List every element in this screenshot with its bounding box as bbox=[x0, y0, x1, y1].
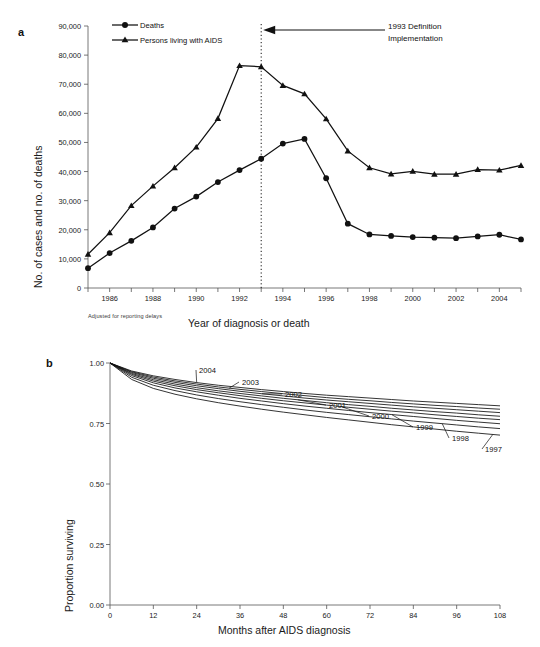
panel-a-y-tick-20000: 20,000 bbox=[35, 225, 81, 234]
panel-b-x-tick-72: 72 bbox=[366, 611, 374, 620]
panel-b-curve-2000 bbox=[110, 363, 500, 420]
panel-b-curve-2002 bbox=[110, 363, 500, 413]
panel-b-curve-label-2003: 2003 bbox=[242, 378, 259, 387]
panel-a-x-tick-1992: 1992 bbox=[231, 294, 247, 303]
panel-b-leader-1998 bbox=[442, 424, 449, 438]
panel-b-y-tick-0-75: 0.75 bbox=[58, 419, 104, 428]
panel-a-y-tick-40000: 40,000 bbox=[35, 167, 81, 176]
panel-a-y-tick-60000: 60,000 bbox=[35, 109, 81, 118]
panel-b-x-tick-108: 108 bbox=[494, 611, 506, 620]
figure-root: a No. of cases and no. of deaths Year of… bbox=[0, 0, 540, 647]
panel-a-series-deaths bbox=[85, 136, 524, 271]
panel-b-y-tick-1-00: 1.00 bbox=[58, 359, 104, 368]
panel-b-x-tick-60: 60 bbox=[323, 611, 331, 620]
panel-a-x-tick-1996: 1996 bbox=[318, 294, 334, 303]
panel-a-legend bbox=[112, 22, 138, 42]
panel-b-chart: b Proportion surviving Months after AIDS… bbox=[0, 340, 540, 647]
panel-b-x-tick-0: 0 bbox=[108, 611, 112, 620]
panel-a-x-tick-1986: 1986 bbox=[101, 294, 117, 303]
panel-b-x-tick-96: 96 bbox=[453, 611, 461, 620]
panel-b-curve-2001 bbox=[110, 363, 500, 416]
panel-a-y-tick-0: 0 bbox=[35, 284, 81, 293]
panel-a-y-tick-80000: 80,000 bbox=[35, 51, 81, 60]
panel-b-y-tick-0-25: 0.25 bbox=[58, 540, 104, 549]
panel-a-x-tick-1994: 1994 bbox=[275, 294, 291, 303]
panel-b-curve-label-1999: 1999 bbox=[416, 423, 433, 432]
panel-b-x-tick-48: 48 bbox=[279, 611, 287, 620]
panel-a-y-tick-30000: 30,000 bbox=[35, 196, 81, 205]
panel-b-x-tick-36: 36 bbox=[236, 611, 244, 620]
panel-b-curve-label-2004: 2004 bbox=[199, 366, 216, 375]
panel-b-curve-label-1998: 1998 bbox=[452, 434, 469, 443]
panel-a-x-tick-1990: 1990 bbox=[188, 294, 204, 303]
panel-b-x-tick-24: 24 bbox=[193, 611, 201, 620]
panel-b-y-tick-0-00: 0.00 bbox=[58, 601, 104, 610]
panel-b-leader-2004 bbox=[196, 370, 197, 383]
panel-a-plot bbox=[0, 0, 540, 340]
panel-a-y-tick-10000: 10,000 bbox=[35, 254, 81, 263]
panel-b-curve-label-2000: 2000 bbox=[372, 412, 389, 421]
panel-a-x-tick-2004: 2004 bbox=[491, 294, 507, 303]
panel-a-y-tick-90000: 90,000 bbox=[35, 22, 81, 31]
panel-b-curve-1997 bbox=[110, 363, 500, 435]
panel-b-x-tick-12: 12 bbox=[149, 611, 157, 620]
panel-a-x-tick-1998: 1998 bbox=[361, 294, 377, 303]
panel-a-y-tick-70000: 70,000 bbox=[35, 80, 81, 89]
panel-b-curve-label-2001: 2001 bbox=[329, 401, 346, 410]
panel-b-x-tick-84: 84 bbox=[409, 611, 417, 620]
panel-a-x-tick-2000: 2000 bbox=[405, 294, 421, 303]
panel-a-chart: a No. of cases and no. of deaths Year of… bbox=[0, 0, 540, 340]
panel-a-x-tick-2002: 2002 bbox=[448, 294, 464, 303]
panel-a-y-tick-50000: 50,000 bbox=[35, 138, 81, 147]
panel-b-curve-label-1997: 1997 bbox=[485, 445, 502, 454]
panel-b-curve-label-2002: 2002 bbox=[285, 390, 302, 399]
panel-b-y-tick-0-50: 0.50 bbox=[58, 480, 104, 489]
panel-a-x-tick-1988: 1988 bbox=[145, 294, 161, 303]
